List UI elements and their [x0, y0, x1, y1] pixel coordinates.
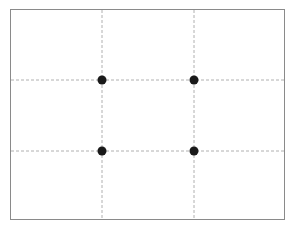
intersection-point-bottom-left — [98, 147, 107, 156]
intersection-point-top-left — [98, 76, 107, 85]
vertical-grid-lines — [102, 10, 194, 219]
intersection-point-top-right — [190, 76, 199, 85]
thirds-grid — [0, 0, 294, 235]
intersection-points — [98, 76, 199, 156]
intersection-point-bottom-right — [190, 147, 199, 156]
horizontal-grid-lines — [11, 80, 284, 151]
